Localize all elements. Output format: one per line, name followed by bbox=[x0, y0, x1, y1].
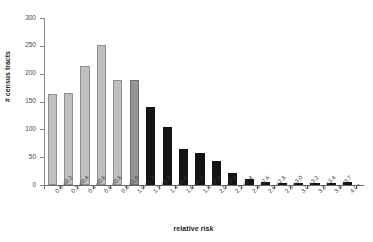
y-axis-tick-label: 200 bbox=[10, 70, 36, 77]
y-axis-tick-label: 150 bbox=[10, 98, 36, 105]
bar bbox=[146, 107, 155, 185]
bar bbox=[80, 66, 89, 185]
y-axis-tick-label: 100 bbox=[10, 126, 36, 133]
y-axis-tick-label: 0 bbox=[10, 182, 36, 189]
y-axis-tick-label: 300 bbox=[10, 15, 36, 22]
x-axis-title: relative risk bbox=[0, 225, 373, 232]
x-axis-title-text: relative risk bbox=[159, 225, 213, 232]
bar bbox=[48, 94, 57, 185]
y-axis-tick-label: 250 bbox=[10, 42, 36, 49]
y-axis-tick-label: 50 bbox=[10, 154, 36, 161]
bar bbox=[64, 93, 73, 185]
bar bbox=[113, 80, 122, 185]
chart-title bbox=[0, 1, 373, 9]
plot-area bbox=[44, 18, 356, 185]
x-axis-tick bbox=[44, 186, 45, 189]
bar bbox=[97, 45, 106, 185]
bar bbox=[130, 80, 139, 185]
chart-screenshot: # census tracts 050100150200250300 0.0-<… bbox=[0, 0, 373, 242]
